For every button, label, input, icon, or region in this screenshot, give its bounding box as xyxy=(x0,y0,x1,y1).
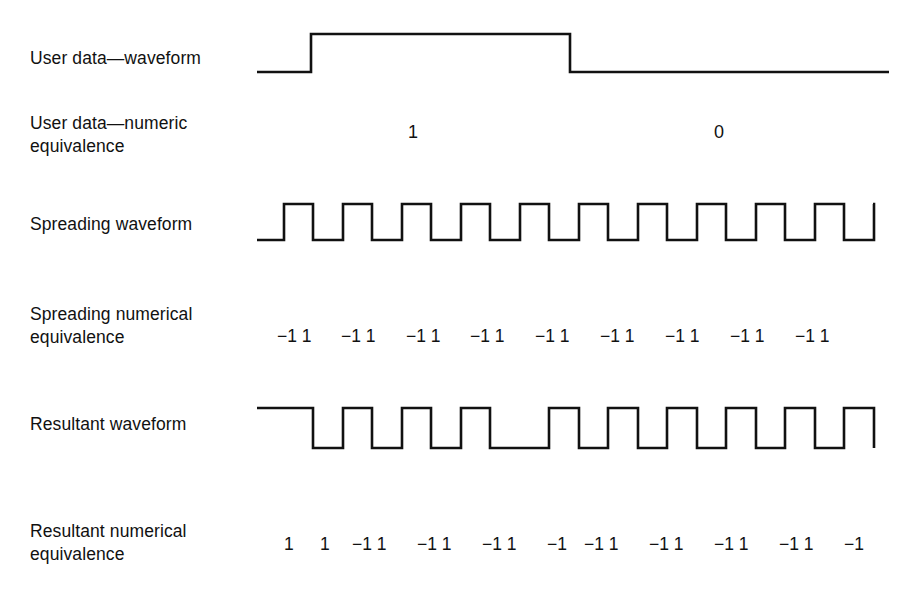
resultant-chip-value: −1 1 xyxy=(714,534,749,555)
user-bit-value: 1 xyxy=(408,122,418,143)
resultant-numeric-values: 1 1 −1 1 −1 1 −1 1 −1 −1 1 −1 1 −1 1 −1 … xyxy=(0,534,906,564)
spreading-chip-pair: −1 1 xyxy=(341,326,376,347)
spreading-numeric-values: −1 1 −1 1 −1 1 −1 1 −1 1 −1 1 −1 1 −1 1 … xyxy=(0,326,906,356)
dsss-waveform-figure: User data—waveform User data—numeric equ… xyxy=(0,0,906,612)
user-data-waveform-path xyxy=(257,34,889,72)
label-spreading-waveform: Spreading waveform xyxy=(30,213,192,236)
label-resultant-waveform: Resultant waveform xyxy=(30,413,186,436)
label-user-data-waveform: User data—waveform xyxy=(30,47,201,70)
resultant-chip-value: −1 1 xyxy=(482,534,517,555)
spreading-chip-pair: −1 1 xyxy=(470,326,505,347)
spreading-waveform-path xyxy=(257,204,874,240)
resultant-chip-value: −1 xyxy=(844,534,864,555)
spreading-chip-pair: −1 1 xyxy=(730,326,765,347)
resultant-chip-value: −1 1 xyxy=(417,534,452,555)
resultant-chip-value: −1 1 xyxy=(649,534,684,555)
spreading-chip-pair: −1 1 xyxy=(406,326,441,347)
user-bit-value: 0 xyxy=(714,122,724,143)
resultant-chip-value: −1 1 xyxy=(779,534,814,555)
resultant-chip-value: 1 xyxy=(284,534,294,555)
spreading-chip-pair: −1 1 xyxy=(277,326,312,347)
user-data-numeric-values: 1 0 xyxy=(0,122,906,152)
spreading-chip-pair: −1 1 xyxy=(535,326,570,347)
resultant-chip-value: −1 1 xyxy=(584,534,619,555)
resultant-chip-value: −1 1 xyxy=(352,534,387,555)
user-data-waveform-plot xyxy=(255,22,895,84)
spreading-waveform-plot xyxy=(255,192,895,254)
spreading-chip-pair: −1 1 xyxy=(795,326,830,347)
resultant-chip-value: 1 xyxy=(320,534,330,555)
resultant-waveform-plot xyxy=(255,396,895,462)
resultant-waveform-path xyxy=(257,408,874,448)
spreading-chip-pair: −1 1 xyxy=(600,326,635,347)
spreading-chip-pair: −1 1 xyxy=(665,326,700,347)
resultant-chip-value: −1 xyxy=(547,534,567,555)
